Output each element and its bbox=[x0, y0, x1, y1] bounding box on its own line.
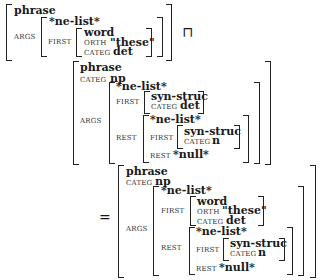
avm3-args-right-bracket bbox=[298, 186, 304, 276]
avm3-first-left-bracket bbox=[190, 196, 196, 226]
avm2-rest-first-categ-value: n bbox=[212, 135, 220, 146]
avm3-args-label: ARGS bbox=[126, 226, 148, 233]
avm2-left-bracket bbox=[73, 61, 79, 165]
avm2-rest-first-label: FIRST bbox=[150, 135, 173, 142]
avm2-args-right-bracket bbox=[254, 82, 260, 164]
avm3-rest-rest-label: REST bbox=[196, 266, 217, 273]
avm2-rest-label: REST bbox=[116, 135, 137, 142]
avm2-rest-right-bracket bbox=[243, 115, 249, 163]
avm1-left-bracket bbox=[6, 4, 12, 61]
avm1-categ-label: CATEG bbox=[84, 50, 110, 57]
avm3-right-bracket bbox=[310, 165, 316, 278]
avm3-rest-label: REST bbox=[161, 245, 182, 252]
avm2-rest-first-left-bracket bbox=[177, 125, 183, 149]
avm3-rest-rest-value: *null* bbox=[219, 262, 255, 273]
avm3-rest-first-label: FIRST bbox=[196, 247, 219, 254]
avm3-rest-first-categ-value: n bbox=[258, 247, 266, 258]
avm2-rest-first-categ-label: CATEG bbox=[184, 139, 210, 146]
avm2-args-left-bracket bbox=[109, 82, 115, 164]
avm1-args-label: ARGS bbox=[14, 34, 36, 41]
avm3-rest-type: *ne-list* bbox=[196, 226, 247, 237]
avm1-orth-label: ORTH bbox=[84, 40, 106, 47]
avm3-categ-label: CATEG bbox=[126, 180, 152, 187]
avm2-rest-rest-label: REST bbox=[150, 153, 171, 160]
avm2-first-label: FIRST bbox=[116, 99, 139, 106]
avm1-categ-value: det bbox=[113, 46, 133, 57]
avm3-rest-right-bracket bbox=[287, 227, 293, 275]
avm3-rest-first-left-bracket bbox=[223, 238, 229, 261]
avm3-orth-label: ORTH bbox=[197, 209, 219, 216]
avm2-first-categ-label: CATEG bbox=[151, 104, 177, 111]
avm2-args-label: ARGS bbox=[80, 118, 102, 125]
avm3-rest-left-bracket bbox=[189, 227, 195, 275]
avm1-right-bracket bbox=[166, 4, 172, 61]
avm1-first-left-bracket bbox=[76, 28, 82, 57]
unify-operator: ⊓ bbox=[182, 24, 193, 40]
avm2-rest-rest-value: *null* bbox=[173, 149, 209, 160]
equals-operator: = bbox=[99, 209, 111, 225]
avm2-first-categ-value: det bbox=[180, 100, 200, 111]
avm3-left-bracket bbox=[118, 165, 124, 278]
avm2-right-bracket bbox=[265, 61, 271, 165]
avm2-rest-left-bracket bbox=[143, 115, 149, 163]
avm1-args-left-bracket bbox=[41, 17, 47, 57]
avm2-categ-label: CATEG bbox=[80, 77, 106, 84]
avm1-first-label: FIRST bbox=[48, 39, 71, 46]
avm3-args-left-bracket bbox=[153, 186, 159, 276]
avm1-args-right-bracket bbox=[157, 17, 163, 57]
avm2-first-left-bracket bbox=[144, 91, 150, 114]
avm3-rest-first-categ-label: CATEG bbox=[230, 251, 256, 258]
avm2-rest-type: *ne-list* bbox=[150, 114, 201, 125]
avm3-first-label: FIRST bbox=[161, 208, 184, 215]
